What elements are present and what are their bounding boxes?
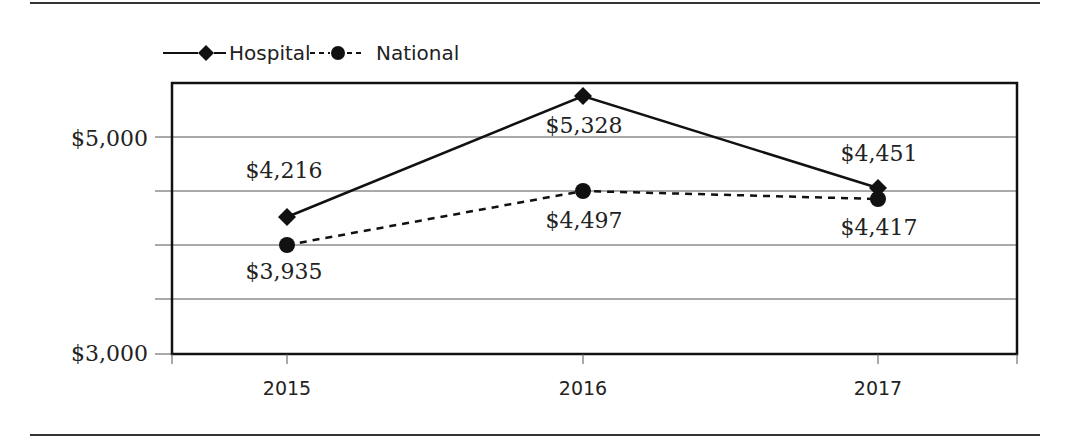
data-point-national-2015 [279, 237, 295, 253]
series-hospital [278, 87, 887, 226]
data-label-national-2016: $4,497 [546, 208, 623, 233]
line-chart: Hospital National $5,000 $3,000 2015 201… [0, 0, 1070, 447]
legend-label-national: National [376, 41, 459, 65]
legend-item-hospital: Hospital [163, 41, 311, 65]
data-point-hospital-2016 [574, 87, 592, 105]
legend-label-hospital: Hospital [229, 41, 311, 65]
y-tick-label-5000: $5,000 [71, 126, 148, 151]
x-tick-label-2017: 2017 [854, 377, 902, 399]
x-tick-label-2016: 2016 [559, 377, 607, 399]
data-point-national-2016 [575, 183, 591, 199]
y-tick-label-3000: $3,000 [71, 341, 148, 366]
data-label-hospital-2016: $5,328 [546, 113, 623, 138]
diamond-marker-icon [198, 45, 214, 61]
x-ticks [172, 354, 1017, 364]
data-label-hospital-2017: $4,451 [841, 141, 918, 166]
x-tick-label-2015: 2015 [263, 377, 311, 399]
legend: Hospital National [163, 41, 459, 65]
data-label-national-2017: $4,417 [841, 215, 918, 240]
data-label-hospital-2015: $4,216 [246, 158, 323, 183]
circle-marker-icon [331, 46, 345, 60]
data-label-national-2015: $3,935 [246, 259, 323, 284]
legend-item-national: National [310, 41, 459, 65]
data-point-hospital-2015 [278, 208, 296, 226]
